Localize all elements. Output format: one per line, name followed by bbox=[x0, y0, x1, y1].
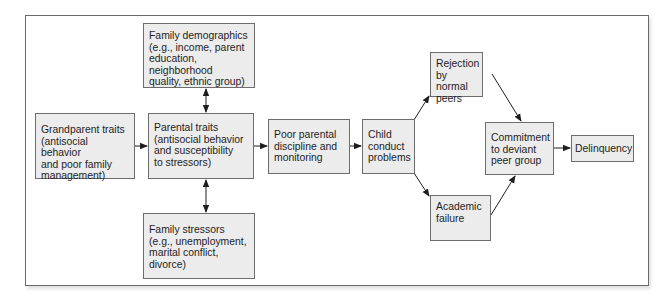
node-grandparent-traits: Grandparent traits (antisocial behavior … bbox=[35, 113, 135, 179]
node-family-demographics: Family demographics (e.g., income, paren… bbox=[143, 23, 255, 88]
node-family-stressors: Family stressors (e.g., unemployment, ma… bbox=[143, 213, 255, 279]
node-label: Delinquency bbox=[575, 143, 628, 155]
node-label: Parental traits (antisocial behavior and… bbox=[154, 122, 248, 168]
node-rejection-by-peers: Rejection by normal peers bbox=[430, 52, 483, 97]
node-label: Commitment to deviant peer group bbox=[491, 132, 548, 167]
arrow-academic-commitment bbox=[491, 176, 515, 215]
arrow-conduct-academic bbox=[414, 173, 429, 196]
node-child-conduct-problems: Child conduct problems bbox=[362, 119, 415, 174]
node-label: Rejection by normal peers bbox=[436, 58, 477, 104]
node-label: Grandparent traits (antisocial behavior … bbox=[41, 124, 129, 182]
node-academic-failure: Academic failure bbox=[430, 195, 491, 241]
node-parental-traits: Parental traits (antisocial behavior and… bbox=[148, 113, 254, 179]
node-label: Family stressors (e.g., unemployment, ma… bbox=[149, 224, 249, 270]
node-label: Academic failure bbox=[436, 201, 485, 224]
node-poor-parental-discipline: Poor parental discipline and monitoring bbox=[268, 119, 350, 174]
node-label: Child conduct problems bbox=[368, 129, 409, 164]
arrow-rejection-commitment bbox=[492, 74, 521, 121]
node-label: Poor parental discipline and monitoring bbox=[274, 129, 344, 164]
arrow-conduct-rejection bbox=[414, 96, 429, 120]
node-commitment-deviant-peers: Commitment to deviant peer group bbox=[485, 122, 554, 175]
node-label: Family demographics (e.g., income, paren… bbox=[149, 30, 249, 88]
node-delinquency: Delinquency bbox=[571, 135, 634, 162]
